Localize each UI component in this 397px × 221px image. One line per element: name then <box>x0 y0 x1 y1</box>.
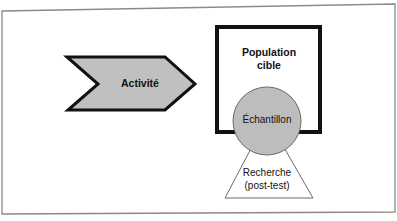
research-line2: (post-test) <box>232 180 302 193</box>
outer-frame <box>2 4 395 214</box>
research-line1: Recherche <box>232 167 302 180</box>
target-population-line2: cible <box>233 59 305 72</box>
target-population-line1: Population <box>233 46 305 59</box>
diagram-svg <box>0 0 397 221</box>
sample-label: Échantillon <box>232 114 302 127</box>
research-label: Recherche (post-test) <box>232 167 302 192</box>
diagram-canvas: Activité Population cible Échantillon Re… <box>0 0 397 221</box>
target-population-label: Population cible <box>233 46 305 72</box>
activity-label: Activité <box>110 77 170 90</box>
